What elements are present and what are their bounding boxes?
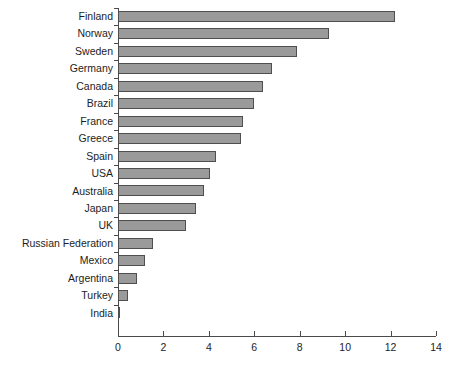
y-axis-label-japan: Japan — [1, 203, 113, 214]
y-axis-label-russian-federation: Russian Federation — [1, 238, 113, 249]
y-axis-label-spain: Spain — [1, 151, 113, 162]
y-axis-label-argentina: Argentina — [1, 273, 113, 284]
y-axis-label-greece: Greece — [1, 133, 113, 144]
bar-row — [118, 148, 436, 165]
x-axis-tick-labels: 02468101214 — [118, 341, 436, 357]
bar-brazil — [118, 98, 254, 109]
x-axis-tick-label: 2 — [161, 341, 167, 354]
y-axis-label-norway: Norway — [1, 28, 113, 39]
x-axis-tick — [436, 331, 437, 336]
y-axis-label-turkey: Turkey — [1, 290, 113, 301]
y-axis-label-india: India — [1, 308, 113, 319]
bar-france — [118, 116, 243, 127]
x-axis-tick-label: 0 — [115, 341, 121, 354]
x-axis-tick — [209, 331, 210, 336]
x-axis-tick-label: 10 — [339, 341, 351, 354]
bar-row — [118, 287, 436, 304]
x-axis-tick — [345, 331, 346, 336]
bar-germany — [118, 63, 272, 74]
bar-australia — [118, 185, 204, 196]
bar-finland — [118, 11, 395, 22]
y-axis-label-france: France — [1, 116, 113, 127]
y-axis-category-labels: FinlandNorwaySwedenGermanyCanadaBrazilFr… — [0, 8, 113, 335]
bar-row — [118, 252, 436, 269]
y-axis-label-mexico: Mexico — [1, 255, 113, 266]
bar-row — [118, 25, 436, 42]
y-axis-label-brazil: Brazil — [1, 98, 113, 109]
x-axis-tick — [118, 331, 119, 336]
x-axis-tick-label: 8 — [297, 341, 303, 354]
bar-uk — [118, 220, 186, 231]
bar-row — [118, 60, 436, 77]
bar-row — [118, 43, 436, 60]
bar-row — [118, 130, 436, 147]
bar-row — [118, 182, 436, 199]
bar-row — [118, 270, 436, 287]
bar-japan — [118, 203, 196, 214]
bar-spain — [118, 151, 216, 162]
bar-chart: FinlandNorwaySwedenGermanyCanadaBrazilFr… — [0, 0, 459, 373]
bar-row — [118, 78, 436, 95]
y-axis-label-australia: Australia — [1, 186, 113, 197]
y-axis-label-germany: Germany — [1, 63, 113, 74]
bar-sweden — [118, 46, 297, 57]
plot-area — [118, 8, 436, 335]
x-axis-tick-label: 4 — [206, 341, 212, 354]
bar-row — [118, 235, 436, 252]
x-axis-tick — [391, 331, 392, 336]
y-axis-label-finland: Finland — [1, 11, 113, 22]
bar-russian-federation — [118, 238, 153, 249]
y-axis-label-uk: UK — [1, 220, 113, 231]
x-axis-tick-label: 14 — [430, 341, 442, 354]
x-axis-tick-label: 12 — [385, 341, 397, 354]
y-axis-label-canada: Canada — [1, 81, 113, 92]
bar-india — [118, 307, 120, 318]
y-axis-label-sweden: Sweden — [1, 46, 113, 57]
bar-greece — [118, 133, 241, 144]
x-axis-tick — [300, 331, 301, 336]
bar-row — [118, 113, 436, 130]
x-axis-tick — [254, 331, 255, 336]
bar-row — [118, 8, 436, 25]
bar-canada — [118, 81, 263, 92]
y-axis-label-usa: USA — [1, 168, 113, 179]
x-axis-line — [118, 336, 436, 337]
bar-row — [118, 200, 436, 217]
bar-norway — [118, 28, 329, 39]
bar-argentina — [118, 273, 137, 284]
bar-usa — [118, 168, 210, 179]
bar-row — [118, 165, 436, 182]
bar-row — [118, 304, 436, 321]
bar-row — [118, 217, 436, 234]
bar-row — [118, 95, 436, 112]
x-axis-tick-label: 6 — [251, 341, 257, 354]
x-axis-tick — [163, 331, 164, 336]
bar-turkey — [118, 290, 128, 301]
bar-mexico — [118, 255, 145, 266]
